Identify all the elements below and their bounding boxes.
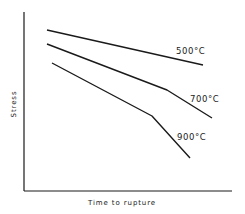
x-axis-label: Time to rupture — [87, 199, 156, 207]
y-axis-label: Stress — [10, 91, 18, 118]
label-700c: 700°C — [190, 94, 219, 104]
curve-900c — [52, 63, 190, 158]
creep-rupture-chart: 500°C 700°C 900°C Time to rupture Stress — [0, 0, 245, 214]
label-900c: 900°C — [177, 132, 206, 142]
label-500c: 500°C — [176, 46, 205, 56]
